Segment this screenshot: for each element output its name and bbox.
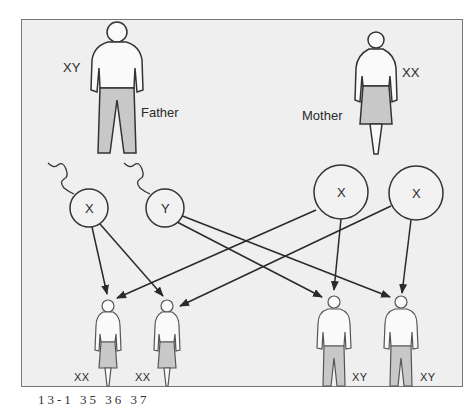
- gamete-label-mother-x2: X: [412, 187, 421, 200]
- son-2-genotype: XY: [420, 372, 436, 383]
- father-genotype-label: XY: [63, 61, 80, 74]
- gamete-label-mother-x1: X: [337, 186, 346, 199]
- gamete-circles: [70, 165, 443, 227]
- father-figure-icon: [91, 22, 143, 153]
- mother-figure-icon: [355, 32, 397, 154]
- daughter-1-genotype: XX: [74, 372, 90, 383]
- mother-genotype-label: XX: [402, 66, 419, 79]
- inheritance-arrows: [92, 206, 411, 306]
- sperm-tail-icons: [48, 163, 150, 194]
- gamete-label-father-x: X: [85, 202, 94, 215]
- son-1-genotype: XY: [352, 372, 368, 383]
- father-label: Father: [141, 106, 179, 119]
- figure-caption: 13-1 35 36 37: [38, 392, 150, 408]
- gamete-label-father-y: Y: [161, 202, 170, 215]
- daughter-2-genotype: XX: [135, 372, 151, 383]
- mother-label: Mother: [302, 109, 342, 122]
